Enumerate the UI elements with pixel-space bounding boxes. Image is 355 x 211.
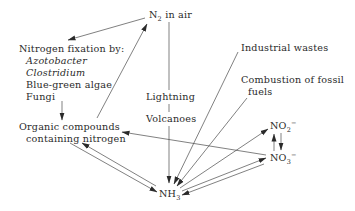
- diagram-arrows: [0, 0, 355, 211]
- arrow-nh3-to-organic: [82, 143, 156, 186]
- arrow-organic-to-nh3: [70, 143, 157, 192]
- label-clostridium: Clostridium: [26, 67, 85, 78]
- arrow-combustion-to-nh3: [177, 98, 247, 186]
- arrow-n2-to-fixation: [68, 18, 145, 40]
- arrow-no3-to-organic: [122, 132, 266, 155]
- arrow-nh3-to-no3: [182, 158, 266, 191]
- label-organic-line1: Organic compounds: [19, 121, 120, 132]
- label-industrial-wastes: Industrial wastes: [241, 42, 328, 53]
- label-azotobacter: Azotobacter: [26, 55, 87, 66]
- label-lightning: Lightning: [146, 91, 195, 102]
- label-blue-green-algae: Blue-green algae: [26, 79, 112, 90]
- nitrogen-cycle-diagram: N2 in air Nitrogen fixation by: Azotobac…: [0, 0, 355, 211]
- arrow-no3-to-nh3: [182, 164, 264, 195]
- label-fixation-title: Nitrogen fixation by:: [19, 43, 124, 54]
- label-no2: NO2−: [270, 120, 297, 131]
- label-combustion-line2: fuels: [248, 86, 272, 97]
- arrow-organic-to-n2: [97, 24, 147, 118]
- label-n2-in-air: N2 in air: [149, 9, 192, 20]
- label-no3: NO3−: [270, 152, 297, 163]
- label-nh3: NH3: [159, 188, 181, 199]
- label-fungi: Fungi: [26, 91, 55, 102]
- label-combustion-line1: Combustion of fossil: [241, 74, 344, 85]
- label-volcanoes: Volcanoes: [146, 113, 196, 124]
- label-organic-line2: containing nitrogen: [26, 133, 126, 144]
